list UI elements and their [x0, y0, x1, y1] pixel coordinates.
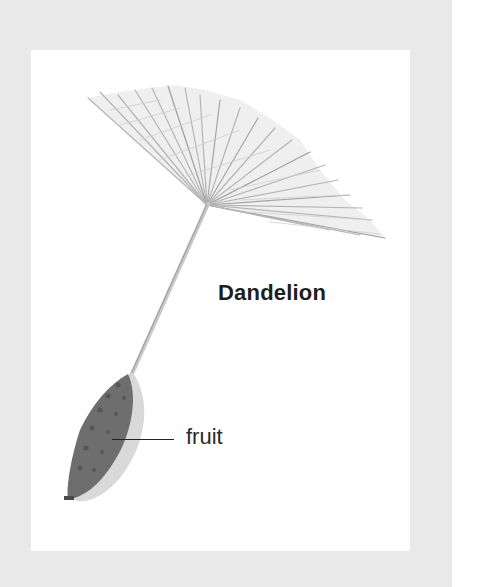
stalk-icon: [126, 204, 208, 385]
pappus-icon: [88, 85, 385, 238]
leader-line: [112, 439, 174, 440]
figure-title: Dandelion: [218, 280, 326, 306]
fruit-icon: [64, 372, 144, 501]
fruit-label: fruit: [186, 424, 223, 450]
